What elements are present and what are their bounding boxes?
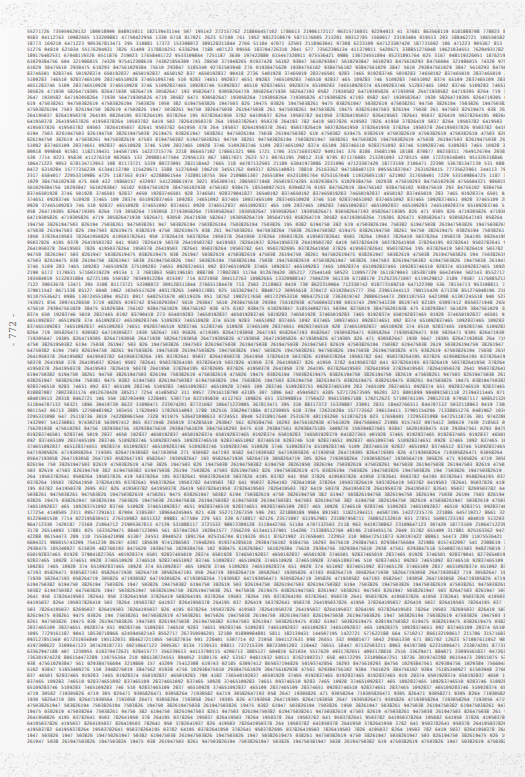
- numeric-line: 1930 58264719 305 826471930564 7193058 2…: [27, 697, 505, 703]
- numeric-line: 50378 2641950 378 264195037 82641 9503 7…: [27, 360, 505, 366]
- numeric-line: 1947 503826 1947 503826 194750261947 503…: [27, 733, 505, 739]
- numeric-line: 4719 30582 719305826 4719 305 826471 930…: [27, 691, 505, 697]
- numeric-line: 2641950826 4195 03782641 9503 782641950 …: [27, 715, 505, 721]
- numeric-line: 837 46501 92837465 019283 7465 01928374 …: [27, 673, 505, 679]
- numeric-data-block: 55271726 735959620132 180018999 84891581…: [27, 29, 505, 746]
- numeric-line: 911075536421 0986 130724551894 05231 891…: [27, 294, 505, 300]
- numeric-line: 419503782 641950378264 19503782641 95037…: [27, 727, 505, 733]
- numeric-line: 261947 5038 261947503826 1947503826 1947…: [27, 739, 505, 745]
- numeric-line: 837465 109283 746510 928374651092 837465…: [27, 679, 505, 685]
- numeric-line: 2641950378 26419503 7826 41950378264 195…: [27, 246, 505, 252]
- numeric-line: 475038 261947503 826 1947503 82619475 03…: [27, 228, 505, 234]
- numeric-line: 63362947188 407 1230955 618370472631 028…: [27, 649, 505, 655]
- numeric-line: 3746 5109 283 7465 109283 746510928 3751…: [27, 264, 505, 270]
- numeric-line: 6102 93847 51853409276 150 3948276019 38…: [27, 667, 505, 673]
- scan-speckle-bottom: [0, 752, 525, 777]
- numeric-line: 65109283746 5109283 7465109283 746 510 9…: [27, 685, 505, 691]
- numeric-line: 2641950378 264195082 6419503782 64195037…: [27, 354, 505, 360]
- numeric-line: 47503 82619475 038 26194750 38261947 503…: [27, 258, 505, 264]
- numeric-line: 736301974228 806154473289 110755364 210 …: [27, 655, 505, 661]
- numeric-line: 093127851560 017231934840 195132031 8846…: [27, 637, 505, 643]
- numeric-line: 837465109283 74651092837 465109283 74651…: [27, 324, 505, 330]
- numeric-line: 64719305826 4719305826 4719 305826471930…: [27, 215, 505, 221]
- numeric-line: 19475 0382619 475038264 75038261 94750 3…: [27, 709, 505, 715]
- numeric-line: 743021 856 30974128650 3719 48265 019374…: [27, 300, 505, 306]
- numeric-line: 95037826 4195 0378 26419503782 641 9503 …: [27, 240, 505, 246]
- numeric-line: 938 475610293847 561 029384756604 321986…: [27, 661, 505, 667]
- numeric-line: 2837465109 28374651 0928374 651 09283746…: [27, 625, 505, 631]
- numeric-line: 4750 38261950382 6194 75038 261947 503 8…: [27, 342, 505, 348]
- page-folio-number: - 772 -: [8, 324, 18, 346]
- numeric-line: 1950 37826419503 782641950826 4195037826…: [27, 234, 505, 240]
- numeric-line: 194750 38261947503 826194 75038261 94750…: [27, 222, 505, 228]
- numeric-line: 7122 39053678 13471 395 3108 81173721 53…: [27, 282, 505, 288]
- numeric-line: 475610 293847561029 38475 61029384 75610…: [27, 306, 505, 312]
- scan-speckle-top: [0, 2, 525, 28]
- numeric-line: 2190 6172 1170631 57160319229 49134 1 3 …: [27, 270, 505, 276]
- numeric-line: 8374 650 19283746 5019 2837465 0192 8379…: [27, 312, 505, 318]
- numeric-line: 64195037826 4195037 8264195037 826419503…: [27, 721, 505, 727]
- numeric-line: 64750382 6194 7503 826194750 38261 94750…: [27, 348, 505, 354]
- numeric-line: 8264 719 305826471 930582 64719305827 19…: [27, 330, 505, 336]
- numeric-line: 719305647 19305 8264719305 82647193058 2…: [27, 336, 505, 342]
- numeric-line: 4651092837 46510928 374 651092837 465109…: [27, 318, 505, 324]
- numeric-line: 4197308622 3109647123 307420187731 69210…: [27, 643, 505, 649]
- numeric-line: 475038261947 503826194 7503826194 750382…: [27, 703, 505, 709]
- numeric-line: 41950378 2641950378 26419503 7826419 503…: [27, 366, 505, 372]
- numeric-line: 64195037 8264 195037826419 503 78264 195…: [27, 600, 505, 606]
- numeric-line: 379011542 0671338 85127 6048 1962 103455…: [27, 288, 505, 294]
- numeric-line: 193484019 5132031884 62721106 550182 703…: [27, 276, 505, 282]
- numeric-line: 94750 38261947 503 8261947 50382619475 0…: [27, 252, 505, 258]
- scanned-page: - 772 - 55271726 735959620132 180018999 …: [0, 0, 525, 777]
- numeric-line: 8261 947503826 19475 038 261947503826 19…: [27, 619, 505, 625]
- numeric-line: 82619475 038261 9475 03826 194 75038261 …: [27, 613, 505, 619]
- numeric-line: 1095 7729161187 9043 18530718966 4245945…: [27, 631, 505, 637]
- numeric-line: 503 78264195037 82695037 826419503 78264…: [27, 607, 505, 613]
